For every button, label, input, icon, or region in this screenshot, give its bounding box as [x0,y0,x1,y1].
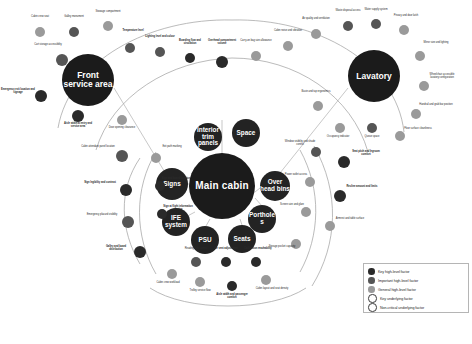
secondary-node-space[interactable]: Space [232,119,260,147]
satellite-label: Recline amount and limits [345,186,379,189]
legend-label: Non-critical underlying factor [380,306,424,310]
satellite-label: Mirror size and lighting [419,42,453,45]
satellite-node[interactable] [325,221,335,231]
satellite-node[interactable] [69,27,79,37]
satellite-node[interactable] [122,216,134,228]
satellite-label: Overhead compartment volume [205,40,239,46]
legend-item-key-high-level: Key high-level factor [368,267,464,276]
satellite-node[interactable] [151,153,161,163]
satellite-label: Emergency placard visibility [85,214,119,217]
satellite-node[interactable] [399,25,409,35]
satellite-label: Stowage compartment [91,11,125,14]
satellite-label: Window visibility and shade control [283,141,317,147]
hub-node-front-service-area[interactable]: Front service area [62,54,114,106]
satellite-node[interactable] [117,115,127,125]
satellite-label: Emergency exit location and signage [1,89,35,95]
satellite-node[interactable] [343,21,353,31]
satellite-node[interactable] [125,43,135,53]
satellite-node[interactable] [195,277,205,287]
satellite-node[interactable] [261,275,271,285]
satellite-label: Sign at flight information service [161,206,195,212]
satellite-node[interactable] [311,147,321,157]
legend-item-non-critical-underlying: Non-critical underlying factor [368,303,464,312]
satellite-label: Door opening clearance [105,127,139,130]
satellite-node[interactable] [134,246,146,258]
satellite-node[interactable] [227,281,237,291]
hub-node-lavatory[interactable]: Lavatory [348,50,400,102]
satellite-label: Armrest and table surface [333,218,367,221]
satellite-label: Cabin crew workload [151,282,185,285]
satellite-label: Occupancy indicator [321,136,355,139]
satellite-label: Cabin attendant panel location [81,146,115,149]
satellite-label: Aisle width and passenger comfort [215,294,249,300]
secondary-node-interior-trim-panels[interactable]: Interior trim panels [194,123,222,151]
satellite-node[interactable] [283,41,293,51]
legend-swatch-icon [368,303,377,312]
satellite-node[interactable] [116,150,128,162]
legend-item-key-underlying: Key underlying factor [368,294,464,303]
satellite-label: Air quality and ventilation [299,18,333,21]
satellite-label: Lighting level and colour [143,36,177,39]
satellite-label: Sign legibility and contrast [83,182,117,185]
satellite-node[interactable] [72,110,84,122]
satellite-node[interactable] [155,47,165,57]
satellite-node[interactable] [305,177,315,187]
legend-label: Key underlying factor [380,297,413,301]
satellite-node[interactable] [155,181,165,191]
satellite-label: Water supply system [359,9,393,12]
satellite-label: Cabin layout and seat density [255,288,289,291]
hub-node-main-cabin[interactable]: Main cabin [189,153,255,219]
satellite-node[interactable] [251,257,261,267]
satellite-node[interactable] [313,101,323,111]
satellite-node[interactable] [334,190,346,202]
satellite-label: Trolley service flow [183,290,217,293]
satellite-node[interactable] [419,81,429,91]
satellite-node[interactable] [56,54,68,66]
satellite-node[interactable] [371,19,381,29]
satellite-label: Seat pitch and legroom comfort [349,151,383,157]
satellite-node[interactable] [367,123,377,133]
legend-item-general-high-level: General high-level factor [368,285,464,294]
satellite-node[interactable] [415,51,425,61]
satellite-node[interactable] [120,184,132,196]
legend-swatch-icon [368,268,375,275]
satellite-label: Wheelchair accessible lavatory configura… [425,74,459,80]
satellite-node[interactable] [35,90,47,102]
satellite-label: Queue space [355,136,389,139]
legend-label: General high-level factor [378,288,416,292]
satellite-node[interactable] [167,269,177,279]
satellite-label: Galley monument [57,16,91,19]
satellite-node[interactable] [338,156,350,168]
satellite-label: Power outlet access [279,174,313,177]
satellite-label: Call button reachability [241,248,275,251]
satellite-node[interactable] [251,51,261,61]
satellite-node[interactable] [221,257,231,267]
satellite-label: Aisle width at entry and service area [61,123,95,129]
satellite-node[interactable] [411,109,421,119]
satellite-node[interactable] [335,123,345,133]
satellite-label: Cabin crew seat [23,16,57,19]
satellite-label: Screen size and glare [275,204,309,207]
legend-item-important-high-level: Important high-level factor [368,276,464,285]
satellite-node[interactable] [35,27,45,37]
satellite-node[interactable] [301,207,311,217]
satellite-node[interactable] [103,21,113,31]
legend-label: Key high-level factor [378,270,410,274]
satellite-label: Cabin noise and vibration [271,30,305,33]
satellite-label: Galley and board distribution [99,246,133,252]
satellite-label: Exit path marking [155,146,189,149]
satellite-label: Privacy and door latch [389,15,423,18]
satellite-node[interactable] [185,53,195,63]
satellite-node[interactable] [311,29,321,39]
secondary-node-portholes[interactable]: Portholes [248,205,276,233]
satellite-label: Carry-on bag size allowance [239,40,273,43]
satellite-node[interactable] [395,131,405,141]
satellite-label: Basin and tap ergonomics [299,91,333,94]
satellite-node[interactable] [191,257,201,267]
satellite-label: Handrail and grab bar position [419,104,453,107]
satellite-label: Floor surface cleanliness [401,128,435,131]
satellite-node[interactable] [216,56,228,68]
satellite-label: Air vent adjustment [209,248,243,251]
satellite-label: Cart storage accessibility [31,44,65,47]
satellite-label: Sign and board location [159,178,193,181]
